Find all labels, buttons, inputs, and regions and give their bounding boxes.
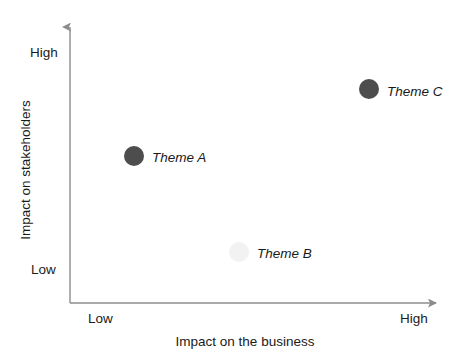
y-axis-tick-high: High <box>30 45 58 60</box>
x-axis-tick-high: High <box>400 311 428 326</box>
marker-dot-theme-a[interactable] <box>124 146 144 166</box>
marker-label-theme-b: Theme B <box>257 246 312 261</box>
y-axis-tick-low: Low <box>31 262 56 277</box>
marker-label-theme-a: Theme A <box>152 150 206 165</box>
marker-dot-theme-b[interactable] <box>229 242 249 262</box>
y-axis-title: Impact on stakeholders <box>18 100 33 240</box>
chart-axes <box>0 0 470 358</box>
marker-dot-theme-c[interactable] <box>359 79 379 99</box>
marker-label-theme-c: Theme C <box>387 84 443 99</box>
x-axis-title: Impact on the business <box>176 334 315 349</box>
x-axis-tick-low: Low <box>88 311 113 326</box>
materiality-matrix-chart: High Low Low High Impact on stakeholders… <box>0 0 470 358</box>
